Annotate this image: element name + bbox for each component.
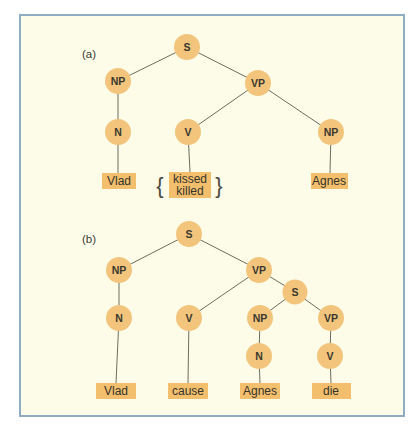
tree-a-brace-left: { <box>156 173 163 198</box>
tree-a-node-np-object-label: NP <box>324 126 339 138</box>
tree-b-leaf-agnes: Agnes <box>240 383 280 399</box>
tree-b-node-vp-embedded-label: VP <box>324 312 338 324</box>
tree-b-node-n-subject-label: N <box>115 312 123 324</box>
tree-a-leaf-agnes-label: Agnes <box>312 174 346 188</box>
syntax-tree-figure: (a) S NP VP N V <box>0 0 417 433</box>
tree-a-brace-right: } <box>215 173 222 198</box>
figure-stage: (a) S NP VP N V <box>0 0 417 433</box>
tree-b-node-np-subject: NP <box>106 257 132 283</box>
tree-b-leaf-agnes-label: Agnes <box>243 384 277 398</box>
tree-b-leaf-vlad-label: Vlad <box>104 384 128 398</box>
tree-a-node-vp: VP <box>245 70 271 96</box>
tree-b-node-v-main: V <box>176 305 202 331</box>
tree-b-node-v-embedded-label: V <box>326 350 333 362</box>
tree-b-node-vp-embedded: VP <box>318 305 344 331</box>
tree-a-leaf-agnes: Agnes <box>311 173 348 189</box>
tree-b-node-s-embedded: S <box>283 280 308 305</box>
tree-b-node-v-main-label: V <box>185 312 192 324</box>
tree-b-node-n-embedded: N <box>246 343 272 369</box>
tree-b-label: (b) <box>82 233 96 245</box>
tree-a-leaf-kissed-killed: kissed killed <box>169 172 211 198</box>
tree-a-node-np-object: NP <box>318 119 344 145</box>
tree-a-node-v: V <box>175 119 201 145</box>
tree-b-node-s-label: S <box>185 228 192 240</box>
tree-b-leaf-cause-label: cause <box>172 384 204 398</box>
tree-a-node-n: N <box>105 119 131 145</box>
tree-b-leaf-die: die <box>312 383 351 399</box>
tree-a-node-s-label: S <box>183 41 190 53</box>
tree-b-node-n-subject: N <box>106 305 132 331</box>
tree-a-node-np-subject: NP <box>105 68 131 94</box>
tree-b-node-np-embedded: NP <box>247 305 273 331</box>
tree-a-node-n-label: N <box>114 126 122 138</box>
tree-b-node-v-embedded: V <box>317 343 343 369</box>
tree-b-node-vp: VP <box>246 257 272 283</box>
tree-a-label: (a) <box>82 48 96 60</box>
tree-a-node-np-subject-label: NP <box>111 75 126 87</box>
tree-b-leaf-cause: cause <box>168 383 208 399</box>
tree-a-node-vp-label: VP <box>251 77 265 89</box>
tree-b-leaf-vlad: Vlad <box>96 383 136 399</box>
tree-b-node-vp-label: VP <box>252 264 266 276</box>
tree-a-node-s: S <box>174 34 200 60</box>
tree-b-node-np-embedded-label: NP <box>253 312 268 324</box>
tree-b-node-np-subject-label: NP <box>112 264 127 276</box>
tree-b-node-s: S <box>176 221 202 247</box>
tree-b-leaf-die-label: die <box>323 384 339 398</box>
tree-a-node-v-label: V <box>184 126 191 138</box>
tree-a-leaf-vlad: Vlad <box>102 173 136 189</box>
figure-panel <box>20 15 404 416</box>
tree-b-node-s-embedded-label: S <box>291 286 298 298</box>
tree-a-leaf-killed-label: killed <box>176 184 203 198</box>
tree-b-node-n-embedded-label: N <box>255 350 263 362</box>
tree-a-leaf-vlad-label: Vlad <box>107 174 131 188</box>
